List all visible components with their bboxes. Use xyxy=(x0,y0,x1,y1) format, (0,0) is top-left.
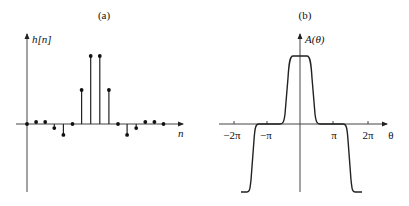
tick-label: −π xyxy=(260,129,272,141)
stem-point xyxy=(71,122,75,126)
stem-point xyxy=(62,133,66,137)
figure: (a) h[n] n (b) A(θ) θ −2π −π π 2π xyxy=(0,0,409,206)
stem-point xyxy=(34,120,38,124)
y-axis-label: h[n] xyxy=(32,33,52,45)
stem-point xyxy=(52,126,56,130)
x-axis-label: n xyxy=(178,127,184,139)
stem-point xyxy=(98,54,102,58)
stem-point xyxy=(43,120,47,124)
stem-point xyxy=(162,122,166,126)
stem-point xyxy=(80,88,84,92)
stem-point xyxy=(153,120,157,124)
stem-point xyxy=(125,133,129,137)
tick-label: −2π xyxy=(223,129,241,141)
panel-b: (b) A(θ) θ −2π −π π 2π xyxy=(219,9,394,192)
panel-a: (a) h[n] n xyxy=(16,9,184,192)
stem-point xyxy=(143,120,147,124)
stem-point xyxy=(25,122,29,126)
x-axis-label: θ xyxy=(388,129,393,141)
panel-a-title: (a) xyxy=(98,9,111,22)
y-axis-label: A(θ) xyxy=(304,33,325,46)
stem-point xyxy=(107,88,111,92)
tick-label: 2π xyxy=(362,129,374,141)
stem-point xyxy=(116,122,120,126)
stem-point xyxy=(134,126,138,130)
panel-b-title: (b) xyxy=(299,9,312,22)
stem-point xyxy=(89,54,93,58)
tick-label: π xyxy=(331,129,337,141)
